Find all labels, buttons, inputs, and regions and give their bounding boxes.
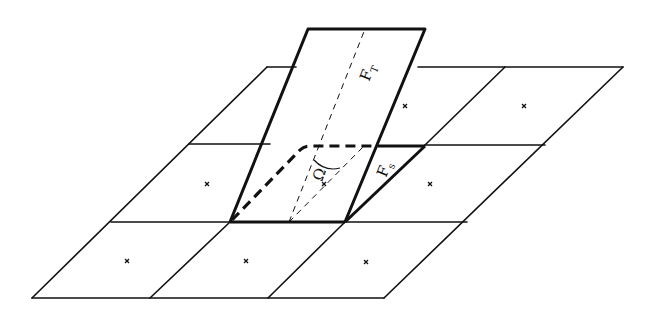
x-mark: [205, 182, 209, 186]
x-mark: [125, 259, 129, 263]
center-cell-hidden-edges: [232, 146, 378, 220]
x-mark: [364, 260, 368, 264]
grid-col-line-2b: [425, 67, 505, 145]
plane-normal-projection: [289, 29, 365, 222]
triangle-facet: [230, 146, 425, 222]
diagram-canvas: FT Fs Ω: [0, 0, 655, 320]
grid-col-line-1a: [150, 222, 230, 298]
x-mark: [244, 259, 248, 263]
x-mark: [522, 104, 526, 108]
x-mark: [428, 182, 432, 186]
grid-col-line-0: [32, 67, 267, 298]
plane-force-label: FT: [356, 61, 381, 85]
diagonal-to-cell-top: [289, 146, 364, 222]
grid-col-line-3: [384, 67, 623, 298]
grid-col-line-2a: [268, 222, 345, 298]
construction-lines: [289, 29, 365, 222]
x-mark: [403, 104, 407, 108]
